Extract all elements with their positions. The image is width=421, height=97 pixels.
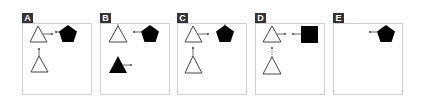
panel-c-frame [177,23,247,95]
filled-pentagon-icon [141,25,159,42]
filled-square-icon [301,26,318,43]
panel-d-shapes [256,24,324,94]
panel-e-frame [333,23,403,95]
outline-triangle-icon [263,57,281,74]
outline-triangle-icon [185,56,202,73]
filled-pentagon-icon [377,25,395,42]
panel-b-shapes [101,24,169,94]
panel-a-frame [22,23,92,95]
panel-e-shapes [334,24,402,94]
panel-b[interactable]: B [100,13,170,94]
panel-b-frame [100,23,170,95]
panel-a-shapes [23,24,91,94]
panel-d[interactable]: D [255,13,325,94]
panel-c-shapes [178,24,246,94]
panel-a[interactable]: A [22,13,92,94]
panel-d-frame [255,23,325,95]
filled-pentagon-icon [59,25,77,42]
outline-triangle-icon [31,56,48,72]
panel-e[interactable]: E [333,13,403,94]
filled-triangle-icon [109,56,127,73]
filled-pentagon-icon [216,25,234,42]
outline-triangle-icon [109,26,127,42]
panel-c[interactable]: C [177,13,247,94]
